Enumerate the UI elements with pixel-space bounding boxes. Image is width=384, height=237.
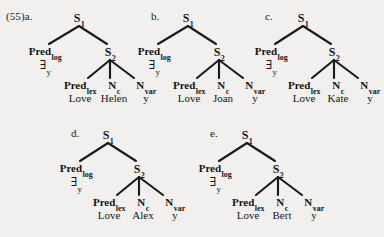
node-subscript: c	[146, 204, 150, 213]
exists-icon: ∃	[39, 58, 46, 72]
leaf-pred-lex: Predlex Love	[173, 80, 205, 105]
node-label: S	[105, 45, 112, 59]
node-subscript: 2	[141, 171, 145, 180]
node-subscript: var	[369, 87, 381, 96]
branch-s2-left	[88, 60, 110, 78]
node-label: Pred	[138, 45, 160, 57]
leaf-n-var: Nvar y	[165, 197, 185, 222]
node-s2: S2	[329, 46, 340, 61]
quantifier-variable: y	[156, 67, 161, 77]
leaf-n-var: Nvar y	[304, 197, 324, 222]
node-label: N	[360, 79, 368, 91]
node-label: S	[183, 11, 190, 25]
node-subscript: 1	[110, 137, 114, 146]
node-label: N	[137, 196, 145, 208]
node-label: Pred	[199, 162, 221, 174]
node-subscript: 2	[336, 54, 340, 63]
node-subscript: lex	[196, 87, 206, 96]
node-subscript: log	[278, 53, 288, 62]
node-subscript: lex	[87, 87, 97, 96]
node-s2: S2	[273, 163, 284, 178]
exists-icon: ∃	[209, 175, 216, 189]
node-subscript: lex	[255, 204, 265, 213]
node-pred-log: Predlog ∃y	[29, 46, 62, 75]
leaf-pred-lex: Predlex Love	[288, 80, 320, 105]
quantifier-variable: y	[273, 67, 278, 77]
leaf-word: Joan	[213, 93, 233, 104]
quantifier-variable: y	[217, 184, 222, 194]
branch-s2-left	[312, 60, 334, 78]
leaf-word: Helen	[101, 93, 127, 104]
tree-b: b. S1 Predlog ∃y S2 Predlex Love Nc Joan…	[129, 0, 259, 118]
node-subscript: lex	[116, 204, 126, 213]
node-label: S	[74, 11, 81, 25]
leaf-pred-lex: Predlex Love	[64, 80, 96, 105]
tree-d: d. S1 Predlog ∃y S2 Predlex Love Nc Alex…	[62, 118, 192, 237]
node-subscript: log	[83, 170, 93, 179]
branch-root-left	[219, 143, 247, 161]
node-subscript: c	[285, 204, 289, 213]
node-subscript: c	[117, 87, 121, 96]
exists-icon: ∃	[148, 58, 155, 72]
leaf-n-c: Nc Helen	[101, 80, 127, 105]
node-label: N	[217, 79, 225, 91]
leaf-word: Alex	[132, 210, 153, 221]
node-subscript: c	[341, 87, 345, 96]
leaf-n-c: Nc Kate	[328, 80, 349, 105]
node-label: Pred	[64, 79, 86, 91]
node-subscript: c	[226, 87, 230, 96]
node-label: Pred	[288, 79, 310, 91]
node-pred-log: Predlog ∃y	[60, 163, 93, 192]
exists-icon: ∃	[265, 58, 272, 72]
node-subscript: var	[174, 204, 186, 213]
leaf-word: Kate	[328, 93, 349, 104]
tree-c: c. S1 Predlog ∃y S2 Predlex Love Nc Kate…	[256, 0, 384, 118]
branch-root-left	[158, 26, 188, 44]
leaf-pred-lex: Predlex Love	[93, 197, 125, 222]
leaf-n-c: Nc Joan	[213, 80, 233, 105]
node-label: S	[242, 128, 249, 142]
node-label: Pred	[173, 79, 195, 91]
node-label: S	[214, 45, 221, 59]
quantifier-variable: y	[47, 67, 52, 77]
node-subscript: 1	[81, 20, 85, 29]
node-subscript: 1	[249, 137, 253, 146]
leaf-pred-lex: Predlex Love	[232, 197, 264, 222]
exists-icon: ∃	[70, 175, 77, 189]
node-label: N	[245, 79, 253, 91]
node-root-s1: S1	[74, 12, 85, 27]
branch-s2-left	[256, 177, 278, 195]
node-root-s1: S1	[298, 12, 309, 27]
node-label: Pred	[93, 196, 115, 208]
node-s2: S2	[134, 163, 145, 178]
leaf-n-c: Nc Alex	[132, 197, 153, 222]
node-label: Pred	[255, 45, 277, 57]
node-label: Pred	[232, 196, 254, 208]
node-subscript: 1	[190, 20, 194, 29]
node-subscript: log	[52, 53, 62, 62]
branch-root-left	[49, 26, 79, 44]
node-label: N	[165, 196, 173, 208]
node-s2: S2	[105, 46, 116, 61]
node-s2: S2	[214, 46, 225, 61]
leaf-n-c: Nc Bert	[273, 197, 292, 222]
tree-a: (55)a. S1 Predlog ∃y S2 Predlex Love Nc …	[0, 0, 130, 118]
node-root-s1: S1	[103, 129, 114, 144]
node-subscript: log	[161, 53, 171, 62]
node-subscript: 1	[305, 20, 309, 29]
node-pred-log: Predlog ∃y	[138, 46, 171, 75]
node-root-s1: S1	[183, 12, 194, 27]
node-pred-log: Predlog ∃y	[199, 163, 232, 192]
leaf-word: Bert	[273, 210, 292, 221]
node-pred-log: Predlog ∃y	[255, 46, 288, 75]
node-root-s1: S1	[242, 129, 253, 144]
node-subscript: 2	[280, 171, 284, 180]
node-subscript: lex	[311, 87, 321, 96]
branch-root-left	[80, 143, 108, 161]
node-label: N	[108, 79, 116, 91]
node-subscript: log	[222, 170, 232, 179]
branch-s2-left	[117, 177, 139, 195]
node-label: N	[304, 196, 312, 208]
quantifier-variable: y	[78, 184, 83, 194]
branch-s2-left	[197, 60, 219, 78]
